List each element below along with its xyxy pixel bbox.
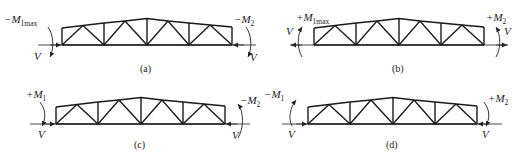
- right-shear-label: V: [482, 128, 490, 140]
- panel-caption: (d): [386, 139, 398, 151]
- left-shear-label: V: [34, 50, 42, 62]
- panel-caption: (a): [140, 63, 151, 75]
- left-shear-label: V: [286, 25, 294, 37]
- left-shear-label: V: [38, 128, 46, 140]
- right-shear-label: V: [232, 129, 240, 141]
- right-shear-label: V: [504, 25, 512, 37]
- truss: [314, 19, 484, 46]
- right-moment-label: −M2: [240, 94, 261, 109]
- left-moment-label: +M1max: [296, 11, 330, 26]
- panel-d: −M1 +M2 V V (d): [264, 88, 509, 151]
- truss: [56, 98, 225, 125]
- right-moment-arrow: [496, 27, 500, 57]
- right-moment-label: −M2: [234, 13, 255, 28]
- right-moment-arrow: [484, 102, 489, 126]
- left-moment-arrow: [48, 27, 53, 57]
- left-moment-arrow: [40, 102, 45, 126]
- right-shear-label: V: [250, 51, 258, 63]
- right-moment-label: +M2: [488, 92, 509, 107]
- truss-load-cases-figure: −M1max −M2 V V (a) +M1max +M2 V V (b): [0, 0, 528, 158]
- right-moment-label: +M2: [486, 11, 507, 26]
- truss: [308, 98, 477, 125]
- left-moment-arrow: [298, 27, 302, 57]
- panel-caption: (b): [392, 63, 404, 75]
- left-moment-label: +M1: [26, 88, 47, 103]
- left-moment-label: −M1: [264, 88, 285, 103]
- truss: [62, 19, 232, 46]
- panel-b: +M1max +M2 V V (b): [286, 11, 512, 75]
- panel-c: +M1 −M2 V V (c): [26, 88, 261, 151]
- panel-a: −M1max −M2 V V (a): [4, 13, 258, 75]
- panel-caption: (c): [134, 139, 145, 151]
- left-shear-label: V: [288, 128, 296, 140]
- left-moment-arrow: [290, 100, 296, 126]
- left-moment-label: −M1max: [4, 13, 38, 28]
